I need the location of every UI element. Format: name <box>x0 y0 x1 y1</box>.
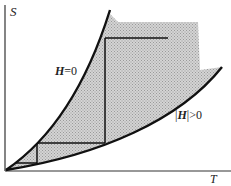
curve-label-nonzero-field: |H|>0 <box>175 108 202 122</box>
x-axis-label: T <box>210 172 218 186</box>
entropy-temperature-diagram: S T H=0 |H|>0 <box>0 0 231 186</box>
y-axis-label: S <box>10 4 17 19</box>
curve-label-zero-field: H=0 <box>54 64 77 78</box>
